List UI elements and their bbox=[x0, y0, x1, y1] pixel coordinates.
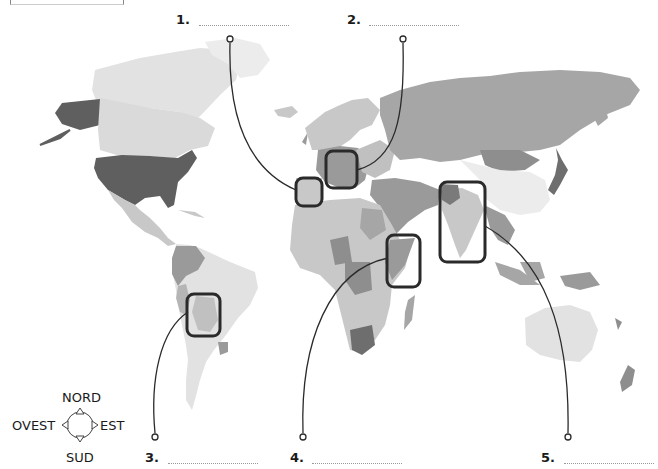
south-america bbox=[172, 244, 258, 410]
compass-north-label: NORD bbox=[62, 390, 101, 405]
compass-east-label: EST bbox=[100, 418, 124, 433]
compass-west-label: OVEST bbox=[12, 418, 55, 433]
answer-field-1[interactable] bbox=[199, 24, 289, 26]
answer-label-3: 3. bbox=[145, 450, 159, 465]
answer-field-4[interactable] bbox=[312, 462, 402, 464]
north-america bbox=[40, 38, 270, 246]
answer-field-3[interactable] bbox=[168, 462, 258, 464]
answer-label-4: 4. bbox=[290, 450, 304, 465]
answer-label-1: 1. bbox=[176, 12, 190, 27]
oceania bbox=[525, 305, 635, 392]
answer-field-5[interactable] bbox=[564, 462, 654, 464]
answer-label-2: 2. bbox=[347, 12, 361, 27]
answer-field-2[interactable] bbox=[369, 24, 459, 26]
asia bbox=[370, 70, 640, 290]
compass-rose bbox=[62, 408, 98, 442]
compass-south-label: SUD bbox=[66, 450, 94, 465]
answer-label-5: 5. bbox=[541, 450, 555, 465]
